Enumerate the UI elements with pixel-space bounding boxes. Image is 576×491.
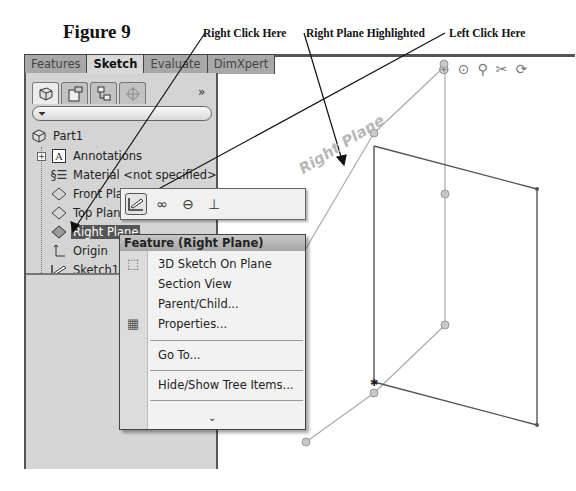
3d-sketch-icon: ⬚ (127, 256, 139, 271)
context-toolbar: ∞ ⊖ ⊥ (120, 188, 306, 220)
part-icon (30, 128, 48, 144)
tree-filter-input[interactable]: ⏷ (32, 106, 212, 121)
menu-separator (150, 400, 303, 401)
dimxpertmanager-icon (124, 86, 142, 102)
expand-menu-button[interactable]: ⌄ (208, 412, 216, 423)
hide-show-button[interactable]: ∞ (151, 193, 173, 215)
callout-left-click: Left Click Here (449, 27, 525, 39)
context-menu: Feature (Right Plane) ⬚ 3D Sketch On Pla… (119, 234, 306, 430)
zoom-to-fit-icon[interactable]: ⊕ (438, 61, 450, 77)
menu-item-go-to[interactable]: Go To... (158, 348, 200, 362)
menu-item-section-view[interactable]: Section View (158, 277, 232, 291)
configurationmanager-tab[interactable] (90, 82, 117, 104)
context-menu-header: Feature (Right Plane) (120, 235, 305, 251)
propertymanager-tab[interactable] (61, 82, 88, 104)
callout-right-click: Right Click Here (203, 27, 286, 39)
expand-annotations-button[interactable]: + (37, 152, 46, 161)
sketch-button[interactable] (125, 193, 147, 215)
sketch-icon (127, 196, 145, 212)
tab-features[interactable]: Features (24, 54, 87, 74)
featuremanager-tree-icon (37, 86, 55, 102)
zoom-to-selection-button[interactable]: ⊖ (177, 193, 199, 215)
callout-plane-highlighted: Right Plane Highlighted (306, 27, 425, 39)
menu-separator (150, 340, 303, 341)
glasses-icon: ∞ (156, 196, 168, 212)
plane-icon (50, 205, 68, 221)
normal-to-button[interactable]: ⊥ (203, 193, 225, 215)
configurationmanager-icon (95, 86, 113, 102)
normal-to-icon: ⊥ (208, 196, 220, 212)
propertymanager-icon (66, 86, 84, 102)
dimxpertmanager-tab[interactable] (119, 82, 146, 104)
properties-icon: ▦ (127, 316, 139, 331)
figure-title: Figure 9 (63, 21, 131, 43)
material-icon: §☰ (50, 167, 68, 183)
previous-view-icon[interactable]: ⚲ (477, 61, 487, 77)
tree-guide-line (41, 147, 42, 283)
feature-manager-tabs (32, 82, 146, 104)
tree-item-part1[interactable]: Part1 (30, 127, 85, 145)
plane-icon (50, 224, 68, 240)
zoom-to-area-icon[interactable]: ⊙ (458, 61, 470, 77)
svg-text:✱: ✱ (370, 377, 378, 388)
more-tabs-button[interactable]: » (198, 85, 205, 99)
zoom-to-selection-icon: ⊖ (182, 196, 194, 212)
menu-item-parent-child[interactable]: Parent/Child... (158, 297, 239, 311)
tab-evaluate[interactable]: Evaluate (143, 54, 207, 74)
tab-dimxpert[interactable]: DimXpert (207, 54, 276, 74)
rotate-view-icon[interactable]: ⟳ (515, 61, 527, 77)
annotations-icon: A (50, 148, 68, 164)
tree-item-material[interactable]: §☰ Material <not specified> (50, 166, 219, 184)
menu-item-hide-show-tree-items[interactable]: Hide/Show Tree Items... (158, 378, 294, 392)
tree-item-origin[interactable]: Origin (50, 242, 110, 260)
right-plane-label: Right Plane (295, 111, 387, 178)
view-toolbar: ⊕ ⊙ ⚲ ✂ ⟳ (438, 61, 527, 77)
featuremanager-tree-tab[interactable] (32, 82, 59, 104)
menu-item-properties[interactable]: Properties... (158, 317, 227, 331)
tree-item-annotations[interactable]: A Annotations (50, 147, 144, 165)
plane-icon (50, 186, 68, 202)
chevron-double-down-icon: ⌄ (208, 412, 216, 423)
menu-item-3d-sketch-on-plane[interactable]: 3D Sketch On Plane (158, 257, 272, 271)
origin-icon (50, 243, 68, 259)
filter-icon: ⏷ (38, 108, 46, 120)
tree-item-top-plane[interactable]: Top Plane (50, 204, 130, 222)
section-view-icon[interactable]: ✂ (496, 61, 508, 77)
menu-separator (150, 370, 303, 371)
menu-icon-gutter (120, 251, 148, 429)
command-manager-tabs: Features Sketch Evaluate DimXpert (24, 54, 274, 74)
